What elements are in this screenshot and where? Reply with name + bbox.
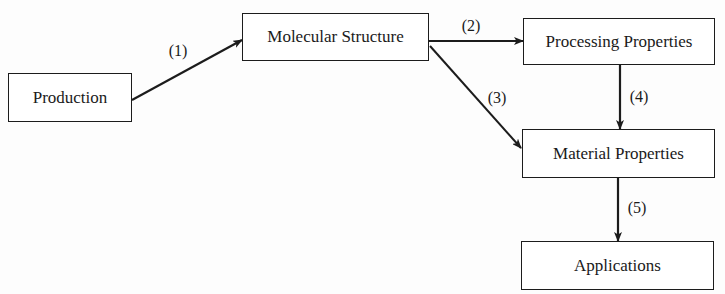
- node-molecular-structure: Molecular Structure: [242, 13, 429, 61]
- node-label: Production: [33, 88, 108, 108]
- node-label: Material Properties: [553, 144, 684, 164]
- node-label: Applications: [574, 256, 661, 276]
- node-label: Molecular Structure: [267, 27, 403, 47]
- node-production: Production: [8, 73, 132, 122]
- arrow-molecular-structure-to-material-properties: [430, 46, 521, 148]
- edge-label-3: (3): [488, 89, 507, 107]
- edge-label-5: (5): [628, 199, 647, 217]
- node-material-properties: Material Properties: [522, 129, 715, 178]
- edge-label-1: (1): [169, 42, 188, 60]
- edge-label-2: (2): [462, 17, 481, 35]
- flow-diagram: Production Molecular Structure Processin…: [0, 0, 725, 294]
- node-processing-properties: Processing Properties: [523, 18, 715, 65]
- node-label: Processing Properties: [546, 32, 693, 52]
- node-applications: Applications: [521, 241, 714, 290]
- edge-label-4: (4): [630, 88, 649, 106]
